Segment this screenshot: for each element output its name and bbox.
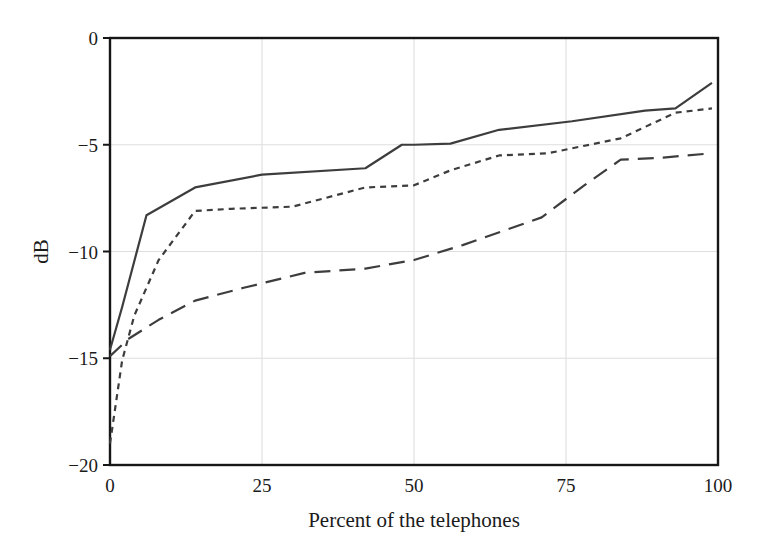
x-tick-label: 75 xyxy=(557,475,576,496)
y-tick-label: −15 xyxy=(68,348,98,369)
x-tick-label: 25 xyxy=(253,475,272,496)
y-tick-label: −5 xyxy=(78,135,98,156)
chart-background xyxy=(0,0,782,541)
x-axis-title: Percent of the telephones xyxy=(308,508,520,532)
y-tick-label: 0 xyxy=(89,28,99,49)
y-tick-label: −20 xyxy=(68,455,98,476)
x-tick-label: 100 xyxy=(704,475,733,496)
chart-figure: 0−5−10−15−20 0255075100 Percent of the t… xyxy=(0,0,782,541)
x-tick-label: 0 xyxy=(105,475,115,496)
y-axis-title: dB xyxy=(29,239,53,264)
line-chart: 0−5−10−15−20 0255075100 Percent of the t… xyxy=(0,0,782,541)
x-tick-label: 50 xyxy=(405,475,424,496)
y-tick-label: −10 xyxy=(68,242,98,263)
